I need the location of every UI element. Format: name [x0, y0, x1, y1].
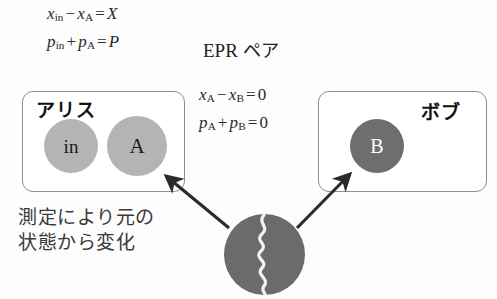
equation-term: pA — [78, 32, 95, 51]
equation-equals: = — [244, 85, 258, 104]
equation-result: 0 — [260, 113, 269, 132]
particle-a: A — [107, 116, 167, 176]
epr-pair-label: EPRペア — [203, 36, 279, 62]
alice-label: アリス — [36, 95, 96, 122]
epr-source — [224, 214, 305, 295]
equation-term: pin — [47, 32, 64, 51]
diagram-canvas: xin−xA=X pin+pA=P EPRペア xA−xB=0 pA+pB=0 … — [0, 0, 497, 299]
bob-label: ボブ — [421, 97, 461, 124]
equation-term: xin — [47, 4, 63, 23]
measurement-caption-line-2: 状態から変化 — [18, 230, 155, 255]
equation-p-a-plus-p-b: pA+pB=0 — [199, 113, 268, 133]
equation-operator: + — [216, 113, 230, 132]
equation-result: 0 — [258, 85, 267, 104]
particle-in: in — [44, 119, 98, 173]
equation-term: xA — [199, 85, 215, 104]
equation-equals: = — [93, 4, 107, 23]
equation-p-in-plus-p-a: pin+pA=P — [47, 32, 119, 52]
equation-operator: − — [63, 4, 77, 23]
squiggle-wave-icon — [224, 214, 305, 295]
equation-term: xA — [77, 4, 93, 23]
equation-equals: = — [246, 113, 260, 132]
equation-term: pA — [199, 113, 216, 132]
equation-x-a-minus-x-b: xA−xB=0 — [199, 85, 266, 105]
particle-b: B — [350, 119, 404, 173]
equation-result: P — [109, 32, 120, 51]
particle-b-label: B — [370, 136, 383, 156]
equation-term: xB — [229, 85, 244, 104]
equation-equals: = — [95, 32, 109, 51]
measurement-caption: 測定により元の 状態から変化 — [18, 205, 155, 255]
equation-operator: − — [215, 85, 229, 104]
equation-result: X — [107, 4, 118, 23]
equation-operator: + — [64, 32, 78, 51]
equation-x-in-minus-x-a: xin−xA=X — [47, 4, 118, 24]
particle-a-label: A — [129, 136, 144, 157]
particle-in-label: in — [64, 137, 79, 156]
epr-kana-text: ペア — [238, 40, 279, 61]
measurement-caption-line-1: 測定により元の — [18, 205, 155, 230]
equation-term: pB — [230, 113, 246, 132]
epr-latin-text: EPR — [203, 40, 238, 61]
